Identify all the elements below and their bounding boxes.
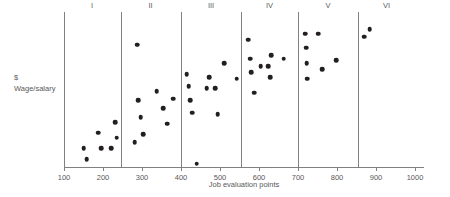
x-tick-700 [298, 167, 299, 171]
x-tick-500 [220, 167, 221, 171]
grade-label-iii: III [208, 1, 214, 10]
grade-label-vi: VI [383, 1, 390, 10]
grade-divider-2 [181, 12, 182, 167]
grade-label-i: I [91, 1, 93, 10]
x-tick-900 [376, 167, 377, 171]
data-point [234, 76, 239, 81]
grade-divider-1 [121, 12, 122, 167]
scatter-chart: $ Wage/salary IIIIIIIVVVI 10020030040050… [0, 0, 450, 197]
data-point [258, 64, 263, 69]
data-point [171, 97, 176, 102]
data-point [249, 70, 254, 75]
data-point [305, 76, 310, 81]
data-point [190, 110, 195, 115]
data-point [187, 84, 192, 89]
data-point [248, 56, 253, 61]
data-point [84, 157, 89, 162]
data-point [207, 75, 212, 80]
data-point [316, 31, 321, 36]
data-point [132, 140, 137, 145]
data-point [213, 86, 218, 91]
x-tick-100 [64, 167, 65, 171]
data-point [141, 132, 146, 137]
data-point [194, 162, 199, 167]
data-point [304, 45, 309, 50]
data-point [114, 135, 119, 140]
data-point [334, 58, 339, 63]
data-point [246, 38, 251, 43]
data-point [281, 56, 286, 61]
y-axis-label: $ Wage/salary [14, 72, 55, 94]
data-point [367, 27, 372, 32]
grade-label-ii: II [148, 1, 152, 10]
data-point [135, 42, 140, 47]
y-axis-line [64, 12, 65, 167]
data-point [222, 61, 227, 66]
x-axis-title: Job evaluation points [64, 180, 424, 189]
data-point [113, 120, 118, 125]
data-point [215, 112, 220, 117]
grade-divider-3 [241, 12, 242, 167]
x-axis-line [64, 167, 424, 168]
data-point [165, 121, 170, 126]
x-tick-800 [337, 167, 338, 171]
data-point [81, 146, 86, 151]
grade-label-v: V [326, 1, 331, 10]
x-tick-200 [103, 167, 104, 171]
data-point [204, 86, 209, 91]
data-point [99, 146, 104, 151]
y-axis-label-measure: Wage/salary [14, 83, 55, 94]
data-point [269, 53, 274, 58]
grade-divider-4 [298, 12, 299, 167]
data-point [96, 131, 101, 136]
x-tick-1000 [415, 167, 416, 171]
data-point [320, 67, 325, 72]
data-point [252, 90, 257, 95]
data-point [266, 64, 271, 69]
data-point [304, 61, 309, 66]
data-point [161, 106, 166, 111]
data-point [185, 72, 190, 77]
plot-area: IIIIIIIVVVI 1002003004005006007008009001… [64, 12, 415, 167]
data-point [139, 115, 144, 120]
y-axis-label-currency: $ [14, 72, 55, 83]
data-point [155, 89, 160, 94]
x-tick-400 [181, 167, 182, 171]
data-point [136, 98, 141, 103]
data-point [268, 75, 273, 80]
grade-divider-5 [358, 12, 359, 167]
data-point [109, 146, 114, 151]
data-point [362, 35, 367, 40]
data-point [303, 31, 308, 36]
x-tick-300 [142, 167, 143, 171]
grade-label-iv: IV [266, 1, 273, 10]
x-tick-600 [259, 167, 260, 171]
data-point [188, 98, 193, 103]
